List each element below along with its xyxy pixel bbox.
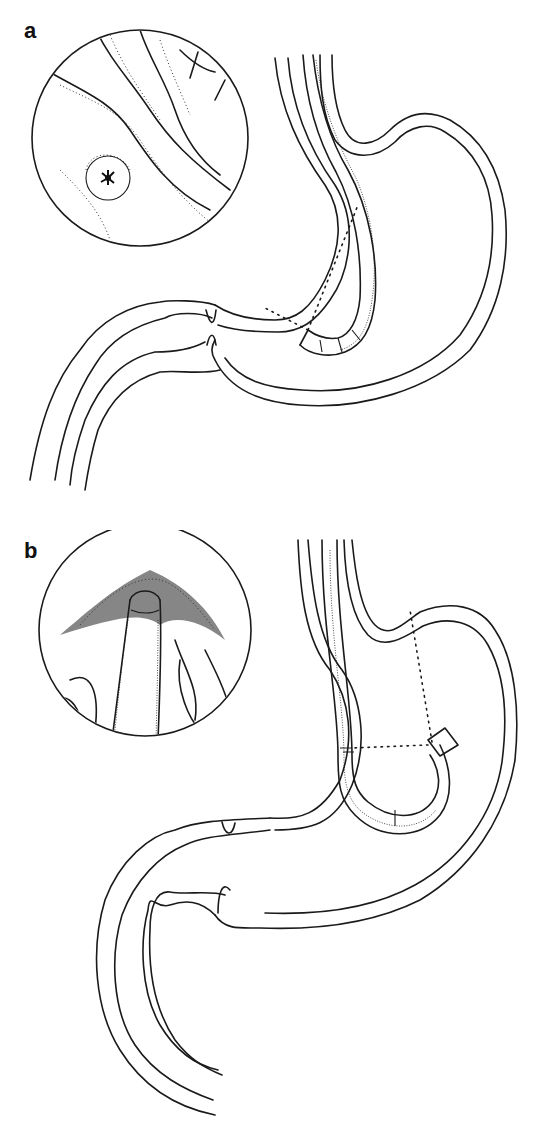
panel-a: a [0, 0, 544, 560]
panel-b: b [0, 530, 544, 1134]
endoscope-a [265, 55, 376, 355]
endoscopic-view-inset-a [32, 28, 248, 246]
stomach-outline-a [30, 55, 506, 490]
endoscopic-view-inset-b [39, 530, 251, 740]
panel-a-illustration [0, 0, 544, 560]
endoscope-b [322, 540, 458, 834]
panel-b-illustration [0, 530, 544, 1134]
stomach-outline-b [97, 540, 517, 1115]
